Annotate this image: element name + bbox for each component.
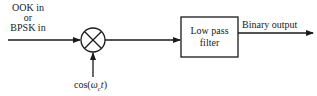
output-label: Binary output	[242, 20, 297, 30]
carrier-label-suffix: )	[104, 79, 107, 90]
carrier-label: cos(ωct)	[74, 80, 107, 94]
carrier-label-omega: ω	[91, 79, 98, 90]
filter-label-line-2: filter	[200, 37, 219, 49]
mixer-icon	[81, 28, 105, 52]
filter-label: Low pass filter	[181, 17, 238, 57]
input-label: OOK in or BPSK in	[6, 3, 50, 33]
input-label-line-3: BPSK in	[6, 23, 50, 33]
carrier-label-prefix: cos(	[74, 79, 91, 90]
filter-label-line-1: Low pass	[190, 25, 228, 37]
